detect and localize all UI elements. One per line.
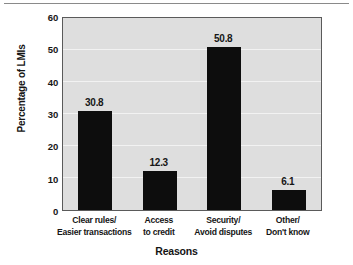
top-divider: [4, 3, 349, 4]
bar-value-label: 12.3: [134, 157, 184, 168]
y-axis-tick-label: 10: [36, 173, 58, 184]
x-axis-title: Reasons: [0, 245, 353, 257]
bar[interactable]: [272, 190, 306, 210]
bar-value-label: 6.1: [263, 176, 313, 187]
y-axis-tick-label: 50: [36, 44, 58, 55]
bar[interactable]: [78, 111, 112, 210]
bar[interactable]: [143, 171, 177, 210]
gridline: [63, 49, 321, 50]
y-axis-tick-label: 20: [36, 141, 58, 152]
x-axis-category-line: Other/: [243, 215, 333, 227]
y-axis-title: Percentage of LMIs: [16, 29, 27, 149]
x-axis-category-line: Don't know: [243, 227, 333, 239]
y-axis-tick-label: 60: [36, 12, 58, 23]
y-axis-tick-label: 30: [36, 109, 58, 120]
gridline: [63, 81, 321, 82]
bar-value-label: 30.8: [69, 97, 119, 108]
y-axis-tick-label: 40: [36, 76, 58, 87]
bar[interactable]: [207, 47, 241, 210]
y-axis-ticks: 6050403020100: [32, 17, 58, 211]
bar-chart-figure: Percentage of LMIs 6050403020100 30.812.…: [0, 0, 353, 265]
bar-value-label: 50.8: [198, 33, 248, 44]
x-axis-category-label: Other/Don't know: [243, 215, 333, 238]
